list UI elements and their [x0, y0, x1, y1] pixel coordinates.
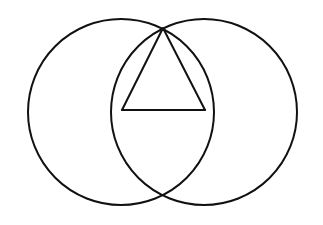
- canvas-background: [0, 0, 323, 225]
- figure-canvas: [0, 0, 323, 225]
- geometry-diagram: [0, 0, 323, 225]
